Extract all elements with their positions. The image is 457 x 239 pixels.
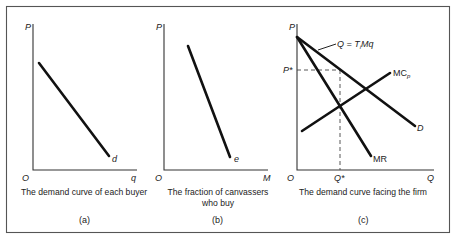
panel-b-tag: (b): [212, 215, 223, 225]
panel-c-y-label: P: [289, 22, 295, 32]
curve-D-label: D: [417, 123, 424, 133]
curve-MR-label: MR: [373, 154, 387, 164]
q-star-label: Q*: [334, 173, 345, 183]
panel-b-y-label: P: [156, 22, 162, 32]
panel-a-origin-label: O: [22, 173, 29, 183]
figure: P O q d The demand curve of each buyer (…: [0, 0, 457, 239]
panel-c-tag: (c): [358, 215, 369, 225]
panel-b-x-label: M: [263, 173, 271, 183]
panel-c-caption: The demand curve facing the firm: [299, 187, 427, 197]
curve-e-label: e: [234, 154, 239, 164]
panel-a-tag: (a): [79, 215, 90, 225]
panel-c-x-label: Q: [427, 173, 434, 183]
panel-b-origin-label: O: [155, 173, 162, 183]
panel-a-caption: The demand curve of each buyer: [21, 187, 147, 197]
panel-a-x-label: q: [131, 173, 136, 183]
panel-a-y-label: P: [25, 22, 31, 32]
panel-c-origin-label: O: [287, 173, 294, 183]
panel-b-caption-line-1: The fraction of canvassers: [168, 187, 269, 197]
panel-b-caption-line-2: who buy: [201, 198, 235, 208]
p-star-label: P*: [283, 65, 293, 75]
demand-annotation: Q = TiMq: [337, 39, 374, 50]
